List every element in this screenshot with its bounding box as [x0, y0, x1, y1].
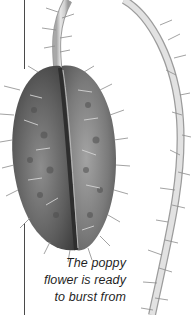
caption-line-2: flower is ready	[44, 272, 126, 289]
seed-pod	[0, 66, 130, 262]
figure-caption: The poppy flower is ready to burst from	[44, 255, 126, 306]
left-stem	[42, 0, 74, 70]
caption-line-3: to burst from	[44, 289, 126, 306]
right-stem	[124, 0, 191, 315]
caption-line-1: The poppy	[44, 255, 126, 272]
